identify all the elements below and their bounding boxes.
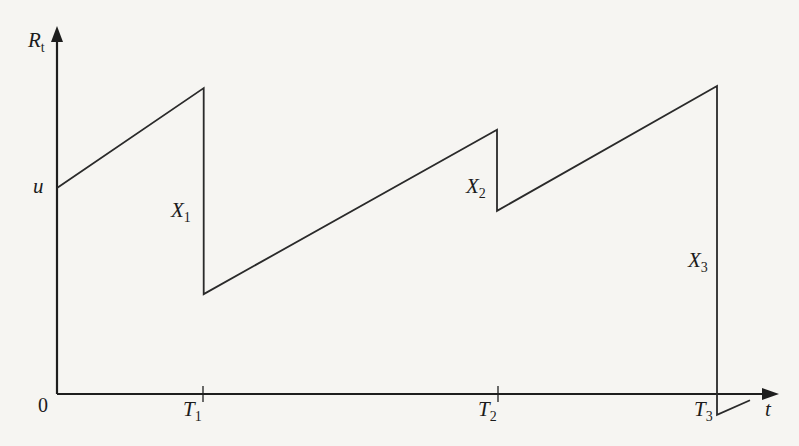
surplus-process-diagram: Rt u 0 X1 X2 X3 T1 T2 T3 t <box>0 0 799 446</box>
claim-time-label-t3: T3 <box>694 397 713 424</box>
y-axis-label: Rt <box>27 28 45 55</box>
claim-size-label-x2: X2 <box>465 174 486 201</box>
origin-label: 0 <box>38 394 48 416</box>
surplus-path <box>57 86 750 415</box>
initial-capital-label: u <box>33 174 44 198</box>
claim-size-label-x1: X1 <box>170 198 191 225</box>
x-axis-label: t <box>765 397 772 421</box>
y-axis-arrow-icon <box>51 26 63 42</box>
claim-size-label-x3: X3 <box>687 248 708 275</box>
claim-time-label-t2: T2 <box>478 397 497 424</box>
claim-time-label-t1: T1 <box>183 397 202 424</box>
